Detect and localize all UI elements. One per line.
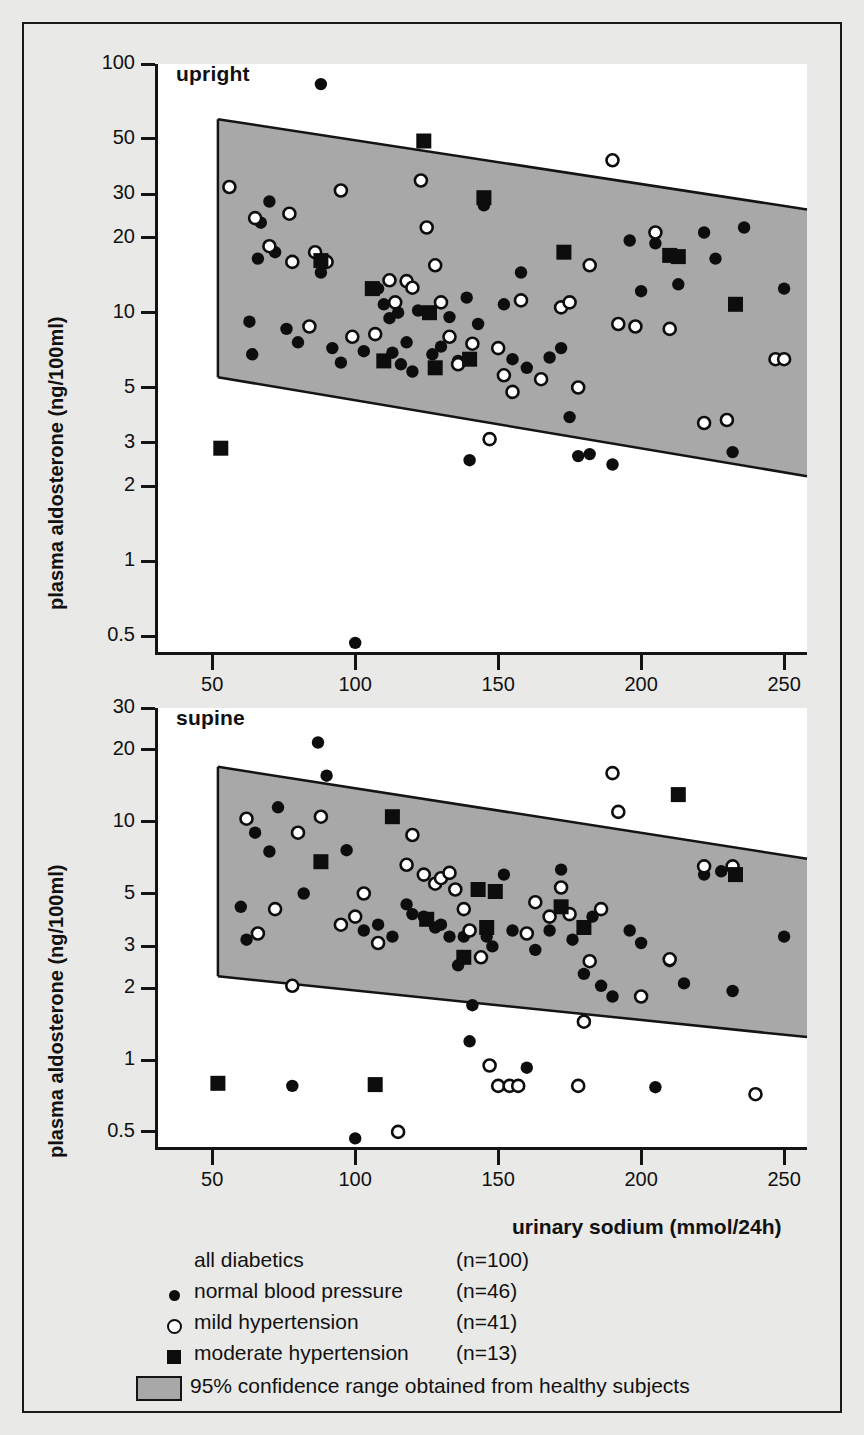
data-point (612, 806, 624, 818)
data-point (671, 249, 686, 264)
data-point (556, 245, 571, 260)
data-point (512, 1080, 524, 1092)
data-point (507, 386, 519, 398)
confidence-band (218, 767, 807, 1037)
data-point (358, 345, 370, 357)
legend-row: all diabetics (n=100) (160, 1248, 800, 1279)
y-tick-mark (141, 707, 155, 710)
data-point (672, 278, 684, 290)
y-tick-label: 3 (124, 933, 135, 956)
data-point (415, 175, 427, 187)
data-point (464, 925, 476, 937)
data-point (280, 323, 292, 335)
data-point (389, 296, 401, 308)
x-tick-label: 50 (172, 673, 252, 696)
y-tick-label: 1 (124, 1047, 135, 1070)
data-point (721, 414, 733, 426)
data-point (484, 1060, 496, 1072)
data-point (709, 252, 721, 264)
x-tick-mark (497, 1150, 500, 1165)
data-point (422, 305, 437, 320)
data-point (443, 311, 455, 323)
legend-band-label: 95% confidence range obtained from healt… (190, 1374, 690, 1398)
plot-svg-upright (0, 0, 864, 700)
y-tick-mark (141, 311, 155, 314)
x-tick-mark (354, 655, 357, 670)
data-point (386, 930, 398, 942)
x-tick-mark (783, 1150, 786, 1165)
data-point (378, 298, 390, 310)
legend-symbol-filled-square-icon (160, 1341, 190, 1372)
data-point (635, 285, 647, 297)
data-point (492, 342, 504, 354)
data-point (444, 331, 456, 343)
data-point (235, 901, 247, 913)
data-point (443, 930, 455, 942)
y-tick-mark (141, 635, 155, 638)
y-tick-label: 0.5 (107, 1119, 135, 1142)
data-point (521, 362, 533, 374)
x-axis-title: urinary sodium (mmol/24h) (512, 1215, 782, 1239)
data-point (292, 336, 304, 348)
data-point (392, 1126, 404, 1138)
legend: all diabetics (n=100) normal blood press… (160, 1248, 800, 1406)
data-point (340, 844, 352, 856)
x-tick-mark (783, 655, 786, 670)
data-point (726, 985, 738, 997)
data-point (444, 867, 456, 879)
legend-label: normal blood pressure (194, 1279, 403, 1303)
data-point (486, 940, 498, 952)
data-point (249, 212, 261, 224)
data-point (384, 274, 396, 286)
data-point (349, 1132, 361, 1144)
legend-row: moderate hypertension (n=13) (160, 1341, 800, 1372)
data-point (303, 321, 315, 333)
data-point (635, 937, 647, 949)
data-point (292, 827, 304, 839)
data-point (506, 924, 518, 936)
data-point (286, 1080, 298, 1092)
data-point (429, 259, 441, 271)
data-point (498, 298, 510, 310)
data-point (435, 919, 447, 931)
data-point (419, 912, 434, 927)
data-point (320, 770, 332, 782)
data-point (365, 281, 380, 296)
y-tick-mark (141, 63, 155, 66)
data-point (456, 950, 471, 965)
data-point (406, 282, 418, 294)
data-point (471, 882, 486, 897)
data-point (698, 417, 710, 429)
data-point (555, 342, 567, 354)
data-point (778, 353, 790, 365)
data-point (210, 1076, 225, 1091)
data-point (315, 811, 327, 823)
data-point (315, 78, 327, 90)
data-point (521, 1062, 533, 1074)
data-point (629, 321, 641, 333)
y-tick-label: 30 (113, 181, 135, 204)
data-point (535, 373, 547, 385)
y-tick-mark (141, 987, 155, 990)
data-point (635, 991, 647, 1003)
data-point (298, 887, 310, 899)
data-point (554, 899, 569, 914)
y-tick-label: 50 (113, 126, 135, 149)
data-point (612, 318, 624, 330)
legend-label: mild hypertension (194, 1310, 359, 1334)
data-point (223, 181, 235, 193)
data-point (272, 801, 284, 813)
data-point (400, 336, 412, 348)
y-tick-label: 20 (113, 225, 135, 248)
data-point (472, 318, 484, 330)
data-point (606, 990, 618, 1002)
data-point (241, 813, 253, 825)
panel-upright: plasma aldosterone (ng/100ml) upright 10… (0, 0, 864, 700)
data-point (607, 767, 619, 779)
data-point (243, 316, 255, 328)
data-point (372, 937, 384, 949)
data-point (506, 353, 518, 365)
data-point (346, 331, 358, 343)
y-tick-label: 2 (124, 975, 135, 998)
data-point (213, 441, 228, 456)
